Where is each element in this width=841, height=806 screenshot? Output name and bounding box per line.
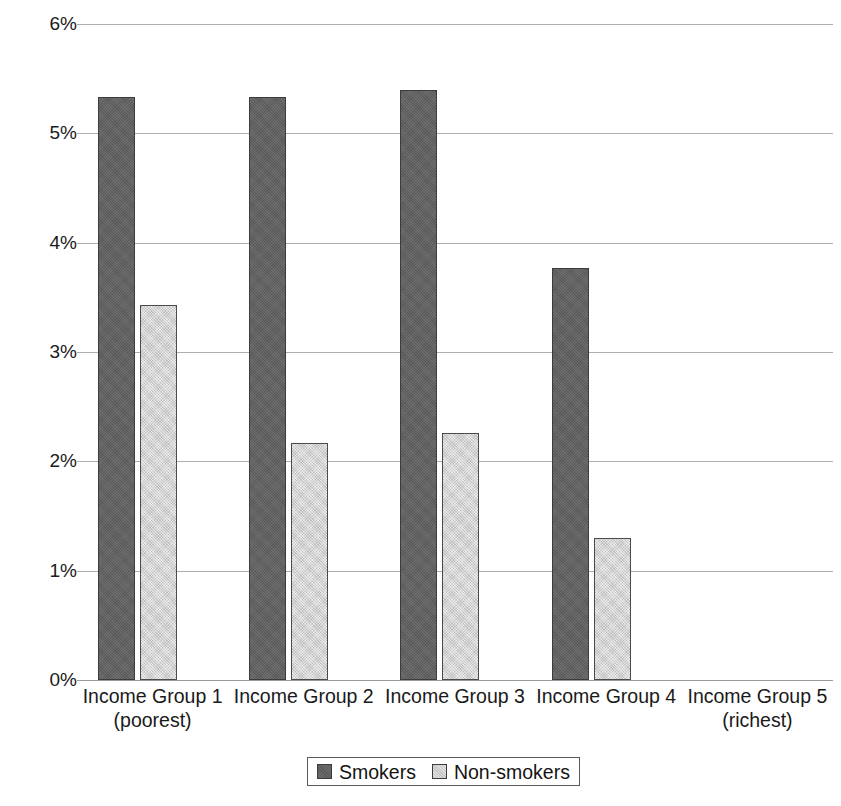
gridline-3 xyxy=(77,352,833,353)
gridline-4 xyxy=(77,243,833,244)
x-axis: Income Group 1(poorest)Income Group 2Inc… xyxy=(0,684,841,744)
x-axis-label-main: Income Group 3 xyxy=(385,685,525,707)
bar-non-smokers-group-2 xyxy=(291,443,328,680)
bar-smokers-group-4 xyxy=(552,268,589,680)
chart-legend: SmokersNon-smokers xyxy=(307,757,580,786)
bar-non-smokers-group-1 xyxy=(140,305,177,680)
bar-smokers-group-1 xyxy=(98,97,135,680)
x-axis-label-sub: (poorest) xyxy=(69,708,236,732)
y-tick-label: 4% xyxy=(31,233,77,252)
y-tick-label: 1% xyxy=(31,561,77,580)
bar-chart: 0%1%2%3%4%5%6% Income Group 1(poorest)In… xyxy=(0,0,841,806)
x-axis-label-main: Income Group 1 xyxy=(83,685,223,707)
gridline-0 xyxy=(77,680,833,681)
gridline-6 xyxy=(77,24,833,25)
legend-label: Non-smokers xyxy=(454,762,570,782)
x-axis-label-group-1: Income Group 1(poorest) xyxy=(69,684,236,732)
y-tick-label: 5% xyxy=(31,123,77,142)
x-axis-label-group-4: Income Group 4 xyxy=(523,684,690,708)
bar-non-smokers-group-3 xyxy=(442,433,479,680)
x-axis-label-group-3: Income Group 3 xyxy=(371,684,538,708)
plot-area xyxy=(77,24,833,680)
gridline-5 xyxy=(77,133,833,134)
legend-label: Smokers xyxy=(339,762,416,782)
bar-non-smokers-group-4 xyxy=(594,538,631,680)
legend-item-smokers[interactable]: Smokers xyxy=(317,762,416,782)
y-tick-label: 3% xyxy=(31,342,77,361)
y-tick-label: 2% xyxy=(31,451,77,470)
legend-swatch-icon xyxy=(432,764,447,779)
bar-smokers-group-3 xyxy=(400,90,437,680)
y-tick-label: 6% xyxy=(31,14,77,33)
x-axis-label-group-5: Income Group 5(richest) xyxy=(674,684,841,732)
x-axis-label-main: Income Group 4 xyxy=(536,685,676,707)
x-axis-label-sub: (richest) xyxy=(674,708,841,732)
legend-item-non-smokers[interactable]: Non-smokers xyxy=(432,762,570,782)
bar-smokers-group-2 xyxy=(249,97,286,680)
x-axis-label-main: Income Group 2 xyxy=(234,685,374,707)
x-axis-label-main: Income Group 5 xyxy=(687,685,827,707)
legend-swatch-icon xyxy=(317,764,332,779)
x-axis-label-group-2: Income Group 2 xyxy=(220,684,387,708)
